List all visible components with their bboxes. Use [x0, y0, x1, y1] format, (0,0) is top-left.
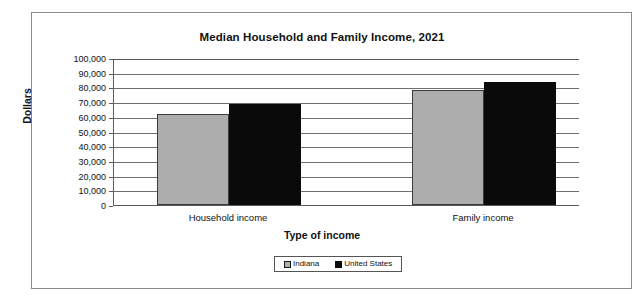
y-axis-tick-mark: [109, 206, 113, 207]
x-category-label-1: Family income: [403, 212, 563, 223]
chart-legend: Indiana United States: [274, 256, 402, 272]
chart-title: Median Household and Family Income, 2021: [0, 31, 644, 43]
y-axis-tick-label: 70,000: [42, 99, 106, 108]
y-axis-tick-label: 100,000: [42, 55, 106, 64]
legend-label-united-states: United States: [344, 260, 392, 268]
legend-swatch-icon-united-states: [335, 261, 342, 268]
y-axis-tick-labels: 100,00090,00080,00070,00060,00050,00040,…: [42, 59, 106, 206]
y-axis-tick-label: 20,000: [42, 172, 106, 181]
chart-screenshot: Median Household and Family Income, 2021…: [0, 0, 644, 301]
gridline: [114, 59, 579, 60]
bar-indiana-1: [412, 90, 484, 205]
y-axis-title: Dollars: [21, 71, 33, 141]
y-axis-tick-label: 30,000: [42, 157, 106, 166]
gridline: [114, 74, 579, 75]
y-axis-tick-label: 0: [42, 202, 106, 211]
bar-us-0: [229, 104, 301, 205]
bar-us-1: [484, 82, 556, 205]
legend-item-indiana: Indiana: [284, 260, 319, 268]
legend-item-united-states: United States: [335, 260, 392, 268]
y-axis-tick-label: 60,000: [42, 113, 106, 122]
y-axis-tick-label: 10,000: [42, 187, 106, 196]
y-axis-tick-label: 80,000: [42, 84, 106, 93]
y-axis-tick-label: 50,000: [42, 128, 106, 137]
x-category-label-0: Household income: [148, 212, 308, 223]
y-axis-tick-label: 40,000: [42, 143, 106, 152]
y-axis-tick-label: 90,000: [42, 69, 106, 78]
bar-indiana-0: [157, 114, 229, 205]
x-axis-title: Type of income: [0, 229, 644, 241]
legend-label-indiana: Indiana: [293, 260, 319, 268]
plot-area: [113, 59, 579, 206]
legend-swatch-icon-indiana: [284, 261, 291, 268]
